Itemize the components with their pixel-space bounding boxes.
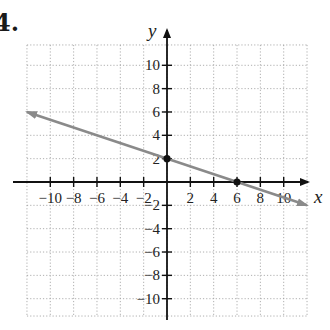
y-tick-label: −2	[144, 197, 160, 213]
x-tick-label: −8	[66, 190, 82, 206]
coordinate-plane-figure: 4. −10−8−6−4−2246810108642−2−4−6−8−10 x …	[0, 0, 330, 330]
y-intercept-point	[163, 155, 170, 162]
x-tick-label: −6	[89, 190, 105, 206]
x-tick-label: 6	[233, 190, 241, 206]
y-tick-label: 8	[153, 81, 161, 97]
x-intercept-point	[233, 178, 240, 185]
y-tick-label: 4	[153, 127, 161, 143]
y-tick-label: −10	[137, 291, 160, 307]
problem-number: 4.	[0, 8, 19, 37]
x-tick-label: 2	[187, 190, 195, 206]
y-axis-label: y	[146, 20, 157, 41]
y-tick-label: 6	[153, 104, 161, 120]
axes	[13, 30, 308, 320]
x-axis-label: x	[313, 186, 323, 207]
x-tick-label: 4	[210, 190, 218, 206]
graph: −10−8−6−4−2246810108642−2−4−6−8−10 x y	[0, 0, 330, 330]
y-tick-label: −8	[144, 267, 160, 283]
x-tick-label: 8	[257, 190, 265, 206]
x-tick-label: −4	[112, 190, 128, 206]
y-tick-label: −4	[144, 221, 160, 237]
x-tick-label: −10	[39, 190, 62, 206]
y-tick-label: 10	[145, 57, 160, 73]
y-tick-label: −6	[144, 244, 160, 260]
